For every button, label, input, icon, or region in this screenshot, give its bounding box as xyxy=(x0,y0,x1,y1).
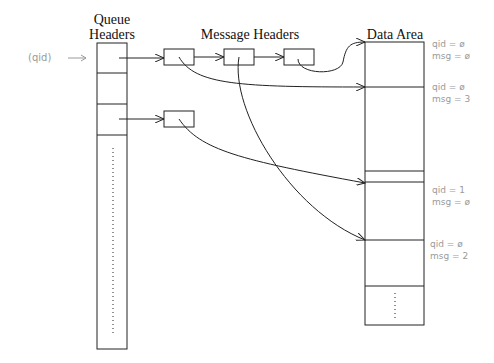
annotation-3: qid = 1 msg = ø xyxy=(432,184,470,208)
queue-headers-column xyxy=(97,43,127,349)
data-area-column xyxy=(365,42,424,325)
qid-pointer-label: (qid) xyxy=(28,52,51,64)
queue-headers-title: Queue Headers xyxy=(82,12,142,42)
message-header-boxes xyxy=(164,49,314,127)
diagram-canvas xyxy=(0,0,494,363)
data-area-title: Data Area xyxy=(355,27,435,42)
pointer-arrows xyxy=(119,42,365,240)
queue-headers-title-line2: Headers xyxy=(82,27,142,42)
annotation-1-msg: msg = ø xyxy=(432,50,470,62)
annotation-3-qid: qid = 1 xyxy=(432,184,470,196)
annotation-3-msg: msg = ø xyxy=(432,196,470,208)
annotation-4-msg: msg = 2 xyxy=(430,250,468,262)
qid-pointer-arrow xyxy=(68,55,86,61)
annotation-2: qid = ø msg = 3 xyxy=(432,81,470,105)
annotation-2-msg: msg = 3 xyxy=(432,93,470,105)
annotation-4-qid: qid = ø xyxy=(430,238,468,250)
annotation-4: qid = ø msg = 2 xyxy=(430,238,468,262)
annotation-2-qid: qid = ø xyxy=(432,81,470,93)
annotation-1: qid = ø msg = ø xyxy=(432,38,470,62)
queue-headers-title-line1: Queue xyxy=(82,12,142,27)
message-headers-title: Message Headers xyxy=(190,27,310,42)
annotation-1-qid: qid = ø xyxy=(432,38,470,50)
